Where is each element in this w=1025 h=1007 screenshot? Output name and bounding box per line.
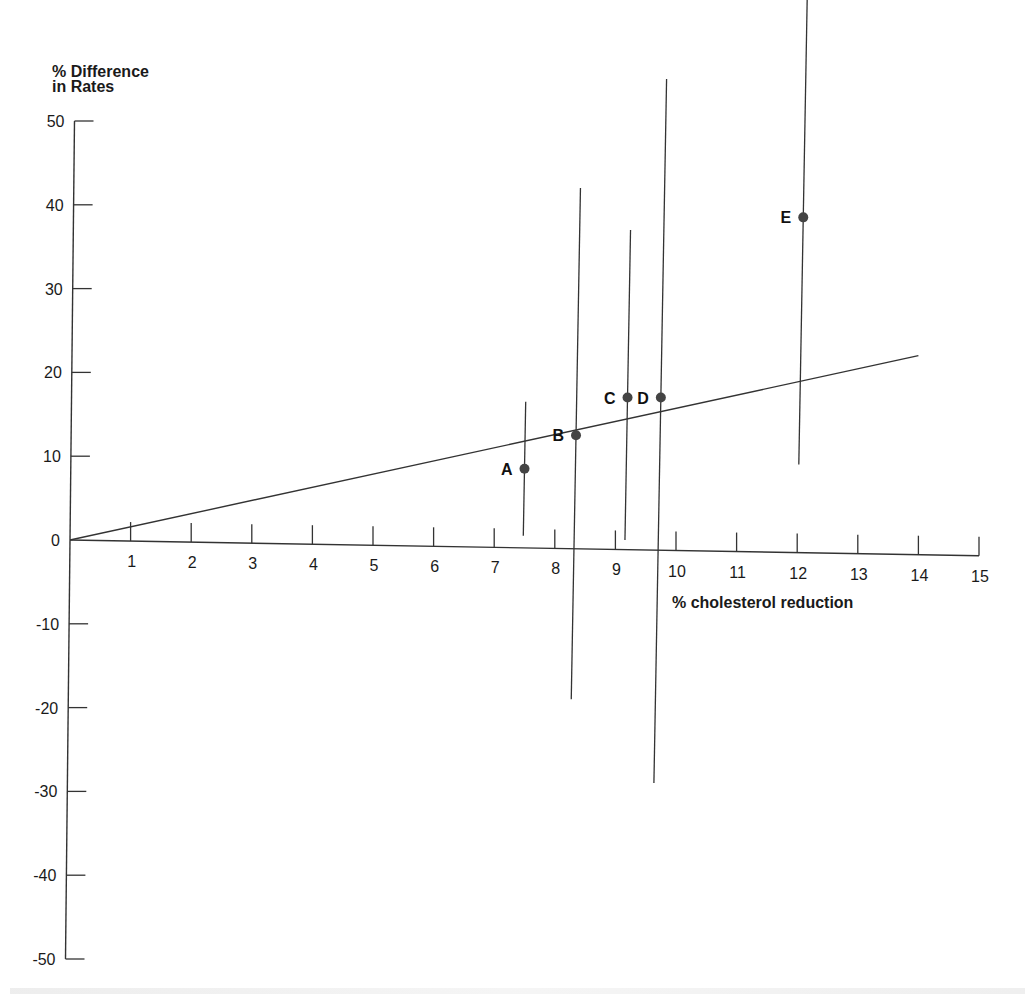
y-tick-label: 20 [44, 364, 62, 381]
x-tick-label: 7 [491, 559, 500, 576]
data-point-b [571, 430, 581, 440]
y-tick-label: 30 [45, 281, 63, 298]
y-tick-label: -50 [32, 951, 55, 968]
y-axis-title: % Difference in Rates [52, 64, 149, 94]
confidence-interval-bar-e [799, 0, 807, 465]
x-tick-label: 4 [309, 556, 318, 573]
scan-artifact-strip [10, 988, 1025, 994]
data-point-e [798, 212, 808, 222]
x-tick-label: 9 [612, 561, 621, 578]
y-tick-label: 40 [46, 197, 64, 214]
x-tick-label: 3 [248, 555, 257, 572]
y-tick-label: 50 [47, 113, 65, 130]
point-label-e: E [781, 209, 792, 226]
data-point-d [656, 393, 666, 403]
point-label-c: C [604, 390, 616, 407]
y-tick-label: 0 [51, 532, 60, 549]
x-tick-label: 1 [127, 553, 136, 570]
y-tick-label: -10 [36, 616, 59, 633]
x-axis-title: % cholesterol reduction [672, 594, 853, 612]
data-point-c [623, 393, 633, 403]
point-label-d: D [637, 390, 649, 407]
regression-line [70, 356, 918, 540]
x-tick-label: 5 [370, 557, 379, 574]
y-tick-label: -30 [34, 783, 57, 800]
x-axis [70, 540, 979, 556]
y-tick-label: -40 [33, 867, 56, 884]
data-point-a [520, 464, 530, 474]
x-tick-label: 2 [188, 554, 197, 571]
x-tick-label: 12 [789, 565, 807, 582]
y-axis-title-line-2: in Rates [52, 79, 149, 94]
x-tick-label: 6 [430, 558, 439, 575]
y-axis-title-line-1: % Difference [52, 64, 149, 79]
x-tick-label: 10 [668, 563, 686, 580]
chart-canvas: 50403020100-10-20-30-40-5012345678910111… [0, 0, 1025, 1007]
confidence-interval-bar-b [571, 188, 580, 699]
point-label-b: B [552, 427, 564, 444]
x-tick-label: 14 [911, 567, 929, 584]
x-tick-label: 13 [850, 566, 868, 583]
x-tick-label: 15 [971, 568, 989, 585]
y-tick-label: 10 [43, 448, 61, 465]
y-tick-label: -20 [35, 700, 58, 717]
confidence-interval-bar-d [654, 79, 667, 783]
x-tick-label: 11 [729, 564, 746, 581]
confidence-interval-bar-c [625, 230, 631, 540]
x-tick-label: 8 [551, 560, 560, 577]
point-label-a: A [501, 461, 513, 478]
